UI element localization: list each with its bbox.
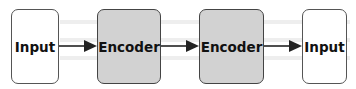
- arrow-icon: [264, 40, 302, 52]
- arrow-icon: [59, 40, 97, 52]
- arrows: [0, 0, 356, 89]
- arrow-icon: [161, 40, 199, 52]
